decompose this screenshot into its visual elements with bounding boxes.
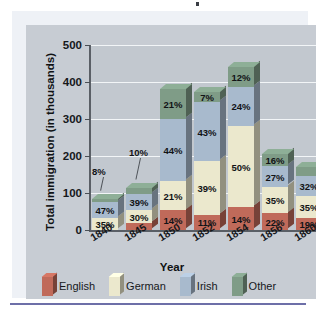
segment-side-face bbox=[220, 155, 226, 213]
bar-segment-1845-other[interactable] bbox=[126, 188, 152, 194]
legend-swatch-front bbox=[109, 277, 120, 296]
bar-segment-1850-german[interactable]: 21% bbox=[160, 181, 186, 211]
bar-segment-1856-other[interactable]: 16% bbox=[262, 154, 288, 166]
bar-segment-1840-irish[interactable]: 47% bbox=[92, 202, 118, 218]
legend-item-german[interactable]: German bbox=[109, 277, 166, 296]
callout-label: 8% bbox=[92, 166, 106, 177]
legend-label: German bbox=[126, 280, 166, 292]
bar-stack-1854[interactable]: 14%50%24%12% bbox=[228, 67, 254, 230]
legend-swatch-german bbox=[109, 277, 120, 296]
bar-segment-1850-other[interactable]: 21% bbox=[160, 89, 186, 119]
segment-value-label: 12% bbox=[228, 71, 254, 82]
segment-value-label: 50% bbox=[228, 161, 254, 172]
bar-segment-1856-german[interactable]: 35% bbox=[262, 187, 288, 214]
segment-top-face bbox=[296, 162, 316, 167]
chart-card: Total immigration (in thousands) 35%47%3… bbox=[26, 25, 316, 299]
segment-value-label: 39% bbox=[194, 183, 220, 194]
legend-label: Irish bbox=[197, 280, 218, 292]
y-axis-tick-label: 500 bbox=[42, 40, 82, 52]
callout-leader-line bbox=[135, 158, 141, 180]
legend-label: Other bbox=[249, 280, 277, 292]
legend-item-other[interactable]: Other bbox=[232, 277, 277, 296]
gridline bbox=[90, 82, 316, 83]
bar-segment-1860-other[interactable] bbox=[296, 167, 316, 176]
bar-segment-1852-english[interactable]: 11% bbox=[194, 215, 220, 230]
bar-segment-1860-irish[interactable]: 32% bbox=[296, 176, 316, 196]
segment-side-face bbox=[254, 119, 260, 205]
legend-swatch-front bbox=[42, 277, 53, 296]
chart-page: Total immigration (in thousands) 35%47%3… bbox=[0, 0, 316, 313]
segment-value-label: 35% bbox=[262, 195, 288, 206]
callout-leader-line bbox=[100, 177, 104, 191]
bar-segment-1850-irish[interactable]: 44% bbox=[160, 119, 186, 181]
y-axis-tick-mark bbox=[85, 156, 90, 157]
y-axis-tick-mark bbox=[85, 82, 90, 83]
figure-panel: Total immigration (in thousands) 35%47%3… bbox=[12, 11, 308, 298]
segment-value-label: 35% bbox=[296, 202, 316, 213]
bar-stack-1840[interactable]: 35%47% bbox=[92, 196, 118, 230]
bar-segment-1854-german[interactable]: 50% bbox=[228, 126, 254, 207]
bar-segment-1854-other[interactable]: 12% bbox=[228, 67, 254, 87]
y-axis-tick-label: 100 bbox=[42, 188, 82, 200]
segment-value-label: 14% bbox=[228, 213, 254, 224]
bar-segment-1852-irish[interactable]: 43% bbox=[194, 102, 220, 161]
bar-segment-1860-english[interactable]: 19% bbox=[296, 218, 316, 230]
segment-side-face bbox=[288, 180, 294, 211]
segment-value-label: 30% bbox=[126, 211, 152, 222]
legend-swatch-other bbox=[232, 277, 243, 296]
segment-value-label: 27% bbox=[262, 171, 288, 182]
legend-swatch-english bbox=[42, 277, 53, 296]
segment-side-face bbox=[186, 174, 192, 208]
segment-value-label: 19% bbox=[296, 219, 316, 230]
title-artifact-mark bbox=[196, 2, 199, 6]
bar-stack-1852[interactable]: 11%39%43%7% bbox=[194, 92, 220, 230]
segment-value-label: 43% bbox=[194, 126, 220, 137]
bar-segment-1840-german[interactable]: 35% bbox=[92, 218, 118, 230]
segment-front-face bbox=[126, 188, 152, 194]
segment-value-label: 22% bbox=[262, 216, 288, 227]
bar-segment-1856-irish[interactable]: 27% bbox=[262, 166, 288, 186]
segment-value-label: 11% bbox=[194, 217, 220, 228]
y-axis-tick-label: 300 bbox=[42, 114, 82, 126]
legend-swatch-front bbox=[180, 277, 191, 296]
segment-value-label: 44% bbox=[160, 144, 186, 155]
legend-label: English bbox=[59, 280, 95, 292]
segment-side-face bbox=[220, 96, 226, 160]
callout-label: 10% bbox=[129, 147, 148, 158]
y-axis-tick-label: 0 bbox=[42, 225, 82, 237]
bar-segment-1854-irish[interactable]: 24% bbox=[228, 87, 254, 126]
legend-swatch-front bbox=[232, 277, 243, 296]
y-axis-line bbox=[89, 45, 91, 231]
legend-item-irish[interactable]: Irish bbox=[180, 277, 218, 296]
segment-value-label: 21% bbox=[160, 190, 186, 201]
bar-segment-1840-other[interactable] bbox=[92, 199, 118, 202]
gridline bbox=[90, 45, 316, 46]
y-axis-tick-mark bbox=[85, 119, 90, 120]
bar-stack-1860[interactable]: 19%35%32% bbox=[296, 167, 316, 230]
segment-front-face bbox=[296, 167, 316, 176]
segment-value-label: 32% bbox=[296, 180, 316, 191]
bar-segment-1852-other[interactable]: 7% bbox=[194, 92, 220, 102]
legend-item-english[interactable]: English bbox=[42, 277, 95, 296]
bar-segment-1845-irish[interactable]: 39% bbox=[126, 194, 152, 210]
segment-value-label: 35% bbox=[92, 219, 118, 230]
bar-stack-1856[interactable]: 22%35%27%16% bbox=[262, 154, 288, 230]
segment-value-label: 14% bbox=[160, 215, 186, 226]
segment-value-label: 39% bbox=[126, 196, 152, 207]
segment-value-label: 16% bbox=[262, 155, 288, 166]
segment-value-label: 24% bbox=[228, 101, 254, 112]
x-axis-title: Year bbox=[26, 261, 316, 273]
y-axis-tick-mark bbox=[85, 45, 90, 46]
segment-value-label: 7% bbox=[194, 92, 220, 103]
bar-segment-1852-german[interactable]: 39% bbox=[194, 161, 220, 215]
bar-segment-1860-german[interactable]: 35% bbox=[296, 196, 316, 218]
y-axis-tick-label: 200 bbox=[42, 151, 82, 163]
y-axis-title: Total immigration (in thousands) bbox=[44, 47, 56, 237]
segment-side-face bbox=[254, 80, 260, 124]
segment-value-label: 21% bbox=[160, 99, 186, 110]
legend-swatch-irish bbox=[180, 277, 191, 296]
bar-segment-1845-german[interactable]: 30% bbox=[126, 210, 152, 223]
bar-stack-1850[interactable]: 14%21%44%21% bbox=[160, 89, 186, 230]
chart-legend: EnglishGermanIrishOther bbox=[42, 275, 314, 297]
y-axis-tick-mark bbox=[85, 193, 90, 194]
